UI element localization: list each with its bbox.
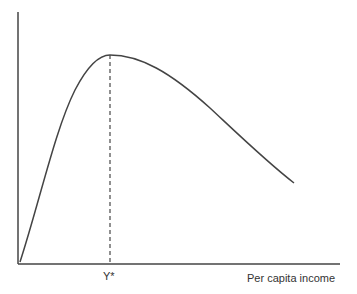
chart-canvas [0, 0, 357, 294]
ystar-label: Y* [103, 270, 115, 282]
curve [20, 55, 294, 262]
x-axis-label: Per capita income [247, 272, 335, 284]
